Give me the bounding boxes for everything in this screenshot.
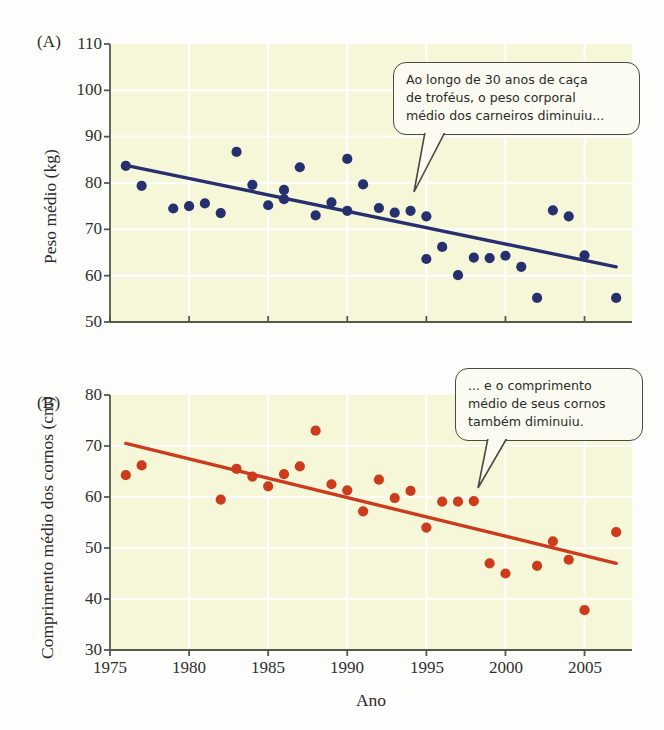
panel-b-ytick-60: 60	[58, 487, 102, 507]
panel-b-ytick-40: 40	[58, 589, 102, 609]
panel-b-xtick-1990: 1990	[330, 658, 364, 678]
panel-a-ytick-60: 60	[58, 266, 102, 286]
panel-b-callout-line-2: médio de seus cornos	[468, 395, 631, 413]
panel-a-callout-line-3: médio dos carneiros diminuiu...	[406, 107, 628, 125]
panel-b-ytick-30: 30	[58, 640, 102, 660]
panel-a-callout-tail	[393, 130, 523, 200]
panel-b-ytick-50: 50	[58, 538, 102, 558]
panel-b-xtick-1980: 1980	[172, 658, 206, 678]
panel-b-callout-line-1: ... e o comprimento	[468, 377, 631, 395]
panel-b-callout-line-3: também diminuiu.	[468, 413, 631, 431]
panel-a-ytick-90: 90	[58, 126, 102, 146]
panel-a: (A) Peso médio (kg) 110 100 90 80 70 60 …	[0, 0, 664, 365]
panel-b-xtick-2000: 2000	[489, 658, 523, 678]
panel-a-ytick-110: 110	[58, 34, 102, 54]
panel-b-xtick-1975: 1975	[93, 658, 127, 678]
x-axis-label: Ano	[356, 690, 386, 711]
panel-b-xtick-2005: 2005	[568, 658, 602, 678]
panel-b-xtick-1995: 1995	[410, 658, 444, 678]
figure-root: (A) Peso médio (kg) 110 100 90 80 70 60 …	[0, 0, 664, 730]
panel-a-callout-line-1: Ao longo de 30 anos de caça	[406, 71, 628, 89]
panel-a-ytick-50: 50	[58, 312, 102, 332]
panel-a-ytick-70: 70	[58, 219, 102, 239]
panel-b: (B) Comprimento médio dos cornos (cm) 80…	[0, 365, 664, 730]
panel-b-ytick-80: 80	[58, 385, 102, 405]
panel-b-callout: ... e o comprimento médio de seus cornos…	[455, 368, 643, 441]
panel-b-callout-tail	[455, 436, 575, 496]
panel-b-y-axis-label: Comprimento médio dos cornos (cm)	[37, 397, 58, 659]
panel-a-callout-line-2: de troféus, o peso corporal	[406, 89, 628, 107]
panel-a-callout: Ao longo de 30 anos de caça de troféus, …	[393, 62, 640, 135]
panel-a-ytick-80: 80	[58, 173, 102, 193]
panel-b-xtick-1985: 1985	[251, 658, 285, 678]
panel-b-ytick-70: 70	[58, 436, 102, 456]
panel-a-y-axis-label: Peso médio (kg)	[40, 149, 61, 264]
panel-a-ytick-100: 100	[58, 80, 102, 100]
